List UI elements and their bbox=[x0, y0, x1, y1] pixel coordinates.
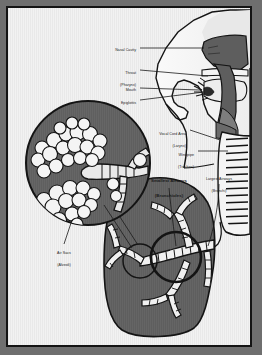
label-windpipe-line1: Windpipe bbox=[134, 153, 194, 157]
label-smallest-airways: Smallest Airways (Bronchioles) bbox=[131, 168, 207, 209]
diagram-frame: Nasal Cavity Throat (Pharynx) Mouth Epig… bbox=[6, 6, 252, 347]
label-smallest-airways-line2: (Bronchioles) bbox=[131, 193, 207, 198]
label-vocal-cord-line1: Vocal Cord Area bbox=[118, 132, 186, 136]
label-nasal-cavity-line1: Nasal Cavity bbox=[115, 48, 136, 52]
label-throat-line1: Throat bbox=[68, 71, 136, 75]
label-epiglottis: Epiglottis bbox=[58, 97, 136, 110]
label-air-sacs-line2: (Alveoli) bbox=[37, 263, 91, 267]
label-nasal-cavity: Nasal Cavity bbox=[68, 44, 136, 57]
diagram-root: Nasal Cavity Throat (Pharynx) Mouth Epig… bbox=[0, 0, 262, 355]
label-smallest-airways-line1: Smallest Airways bbox=[131, 178, 207, 183]
label-epiglottis-line1: Epiglottis bbox=[121, 101, 136, 105]
label-air-sacs: Air Sacs (Alveoli) bbox=[37, 242, 91, 276]
label-mouth-line1: Mouth bbox=[126, 88, 136, 92]
label-mouth: Mouth bbox=[68, 84, 136, 97]
label-air-sacs-line1: Air Sacs bbox=[37, 251, 91, 255]
